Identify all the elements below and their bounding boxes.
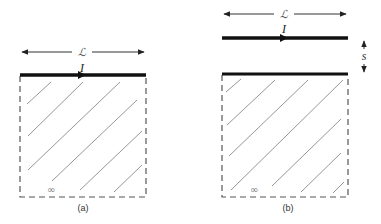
- infinity-label: ∞: [250, 184, 258, 195]
- panel-caption: (a): [78, 203, 89, 213]
- infinity-label: ∞: [47, 184, 55, 195]
- current-label: I: [281, 22, 287, 36]
- panel-b: ℒ I s ∞ (b): [222, 8, 367, 213]
- hatched-region: [226, 79, 344, 193]
- diagram-canvas: ℒ I ∞ (a) ℒ I: [0, 0, 381, 224]
- length-label: ℒ: [78, 46, 87, 59]
- panel-a: ℒ I ∞ (a): [20, 46, 146, 213]
- hatched-region: [27, 82, 142, 192]
- panel-caption: (b): [283, 203, 294, 213]
- separation-label: s: [362, 49, 367, 63]
- length-label: ℒ: [280, 8, 289, 21]
